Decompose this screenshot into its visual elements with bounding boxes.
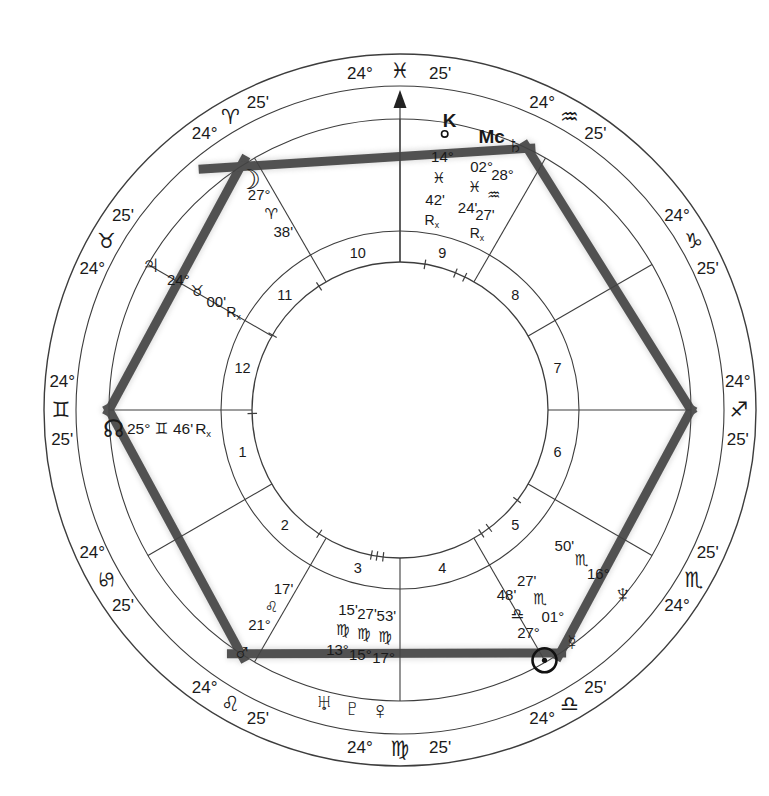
mercury-icon: ☿ xyxy=(564,630,581,655)
sun-icon-dot xyxy=(542,658,547,663)
cusp-label-scorpio-minute: 25' xyxy=(697,543,719,562)
sun-minute: 48' xyxy=(497,586,517,603)
pluto-minute: 27' xyxy=(357,605,377,622)
mc-degree: 02° xyxy=(470,158,493,175)
capricorn-sign-icon: ♑ xyxy=(684,229,703,252)
scorpio-sign-icon: ♏ xyxy=(684,568,703,591)
chiron-sign-icon: ♓ xyxy=(432,169,445,186)
house-number-7: 7 xyxy=(553,360,561,376)
cusp-label-sagittarius-minute: 25' xyxy=(727,430,749,449)
jupiter-icon: ♃ xyxy=(141,249,161,279)
cusp-label-gemini-degree: 24° xyxy=(49,372,75,391)
neptune-degree: 16° xyxy=(587,565,610,582)
mc-minute: 24' xyxy=(458,199,478,216)
chiron-degree: 14° xyxy=(431,148,454,165)
jupiter-degree: 24° xyxy=(167,271,190,288)
cusp-label-pisces-degree: 24° xyxy=(347,64,373,83)
sun-degree: 27° xyxy=(517,624,540,641)
cusp-label-libra-degree: 24° xyxy=(529,709,555,728)
cusp-label-scorpio-degree: 24° xyxy=(664,596,690,615)
chiron-icon: K xyxy=(443,110,457,131)
mc-label: Mc xyxy=(478,126,505,147)
house-number-2: 2 xyxy=(281,517,289,533)
house-number-1: 1 xyxy=(239,444,247,460)
mercury-minute: 27' xyxy=(517,572,537,589)
house-number-10: 10 xyxy=(350,245,366,261)
house-number-4: 4 xyxy=(438,560,446,576)
natal-chart-wheel: 24°♈25'24°♉25'24°♊25'24°♋25'24°♌25'24°♍2… xyxy=(0,0,769,796)
aries-sign-icon: ♈ xyxy=(221,105,240,128)
north-node-icon: ☊ xyxy=(103,415,124,442)
house-number-9: 9 xyxy=(438,245,446,261)
pluto-icon: ♇ xyxy=(343,694,361,721)
virgo-sign-icon: ♍ xyxy=(391,737,410,760)
gemini-sign-icon: ♊ xyxy=(52,398,71,421)
pluto-sign-icon: ♍ xyxy=(357,625,370,642)
leo-sign-icon: ♌ xyxy=(221,692,240,715)
cusp-label-sagittarius-degree: 24° xyxy=(725,372,751,391)
cusp-label-pisces-minute: 25' xyxy=(429,64,451,83)
cusp-label-cancer-degree: 24° xyxy=(79,543,105,562)
venus-sign-icon: ♍ xyxy=(378,628,391,645)
house-number-12: 12 xyxy=(234,360,250,376)
libra-sign-icon: ♎ xyxy=(560,692,579,715)
cusp-label-aries-degree: 24° xyxy=(192,124,218,143)
taurus-sign-icon: ♉ xyxy=(97,229,116,252)
cusp-label-capricorn-minute: 25' xyxy=(697,259,719,278)
uranus-degree: 13° xyxy=(326,641,349,658)
cusp-label-cancer-minute: 25' xyxy=(112,596,134,615)
house-number-6: 6 xyxy=(553,444,561,460)
north-node-position-label: 25° ♊ 46'Rx xyxy=(127,420,211,439)
mars-degree: 21° xyxy=(248,616,271,633)
saturn-degree: 28° xyxy=(491,166,514,183)
chiron-minute: 42' xyxy=(425,191,445,208)
moon-minute: 38' xyxy=(274,223,294,240)
pisces-sign-icon: ♓ xyxy=(391,59,410,82)
cusp-label-leo-degree: 24° xyxy=(192,678,218,697)
venus-icon: ♀ xyxy=(371,696,390,724)
house-number-5: 5 xyxy=(511,517,519,533)
cusp-label-aquarius-minute: 25' xyxy=(584,124,606,143)
cusp-label-leo-minute: 25' xyxy=(247,709,269,728)
moon-degree: 27° xyxy=(248,186,271,203)
mars-icon: ♂ xyxy=(233,638,252,666)
cusp-label-aries-minute: 25' xyxy=(247,93,269,112)
sagittarius-sign-icon: ♐ xyxy=(730,398,749,421)
cusp-label-taurus-minute: 25' xyxy=(112,206,134,225)
house-number-11: 11 xyxy=(277,287,292,303)
cancer-sign-icon: ♋ xyxy=(95,570,118,589)
pluto-degree: 15° xyxy=(349,646,372,663)
moon-sign-icon: ♈ xyxy=(265,205,278,222)
mars-minute: 17' xyxy=(274,580,294,597)
venus-degree: 17° xyxy=(372,649,395,666)
uranus-sign-icon: ♍ xyxy=(336,621,349,638)
jupiter-sign-icon: ♉ xyxy=(191,282,204,299)
house-number-8: 8 xyxy=(511,287,519,303)
uranus-icon: ♅ xyxy=(315,688,333,715)
mars-sign-icon: ♌ xyxy=(265,598,278,615)
sun-sign-icon: ♎ xyxy=(511,605,524,622)
aquarius-sign-icon: ♒ xyxy=(560,105,579,128)
aspect-line-sun-mars xyxy=(227,653,566,654)
saturn-sign-icon: ♒ xyxy=(487,186,500,203)
neptune-sign-icon: ♏ xyxy=(575,551,589,568)
house-number-3: 3 xyxy=(354,560,362,576)
mercury-degree: 01° xyxy=(542,608,565,625)
cusp-label-taurus-degree: 24° xyxy=(79,259,105,278)
jupiter-minute: 00' xyxy=(207,293,227,310)
saturn-minute: 27' xyxy=(475,206,495,223)
cusp-label-virgo-degree: 24° xyxy=(347,738,373,757)
cusp-label-virgo-minute: 25' xyxy=(429,738,451,757)
book-page: gy,yypgg 24°♈25'24°♉25'24°♊25'24°♋25'24°… xyxy=(0,0,769,796)
cusp-label-capricorn-degree: 24° xyxy=(664,206,690,225)
saturn-icon: ♄ xyxy=(506,131,524,158)
uranus-minute: 15' xyxy=(338,601,358,618)
mc-sign-icon: ♓ xyxy=(468,178,481,195)
neptune-minute: 50' xyxy=(555,537,575,554)
venus-minute: 53' xyxy=(377,607,397,624)
cusp-label-aquarius-degree: 24° xyxy=(529,93,555,112)
mercury-sign-icon: ♏ xyxy=(533,590,547,607)
neptune-icon: ♆ xyxy=(613,579,633,609)
cusp-label-gemini-minute: 25' xyxy=(51,430,73,449)
cusp-label-libra-minute: 25' xyxy=(584,678,606,697)
